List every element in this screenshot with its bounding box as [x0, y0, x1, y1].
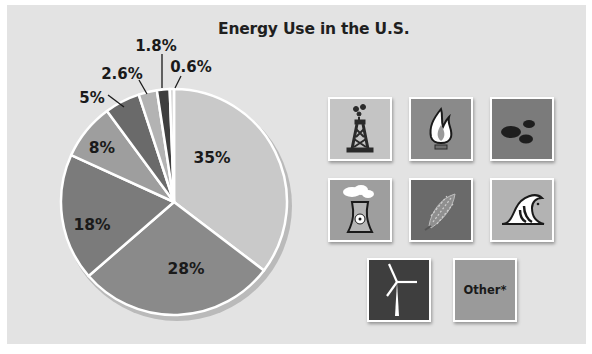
legend-tile-nuclear	[328, 178, 392, 242]
pie-slices	[61, 89, 292, 321]
label-wind: 1.8%	[135, 37, 177, 55]
label-hydro: 2.6%	[101, 65, 143, 83]
corn-icon	[411, 180, 471, 240]
label-biomass: 5%	[79, 89, 104, 107]
label-other: 0.6%	[170, 58, 212, 76]
oil-derrick-icon	[330, 99, 390, 159]
gas-flame-icon	[411, 99, 471, 159]
wave-icon	[492, 180, 552, 240]
legend-tile-biomass	[409, 178, 473, 242]
label-oil: 35%	[193, 149, 231, 167]
legend-tile-coal	[490, 97, 554, 161]
coal-icon	[492, 99, 552, 159]
wind-turbine-icon	[369, 260, 429, 320]
legend-tile-other: Other*	[453, 258, 517, 322]
legend-tile-oil	[328, 97, 392, 161]
legend-tile-wind	[367, 258, 431, 322]
label-coal: 18%	[73, 216, 111, 234]
label-gas: 28%	[167, 260, 205, 278]
nuclear-plant-icon	[330, 180, 390, 240]
other-label: Other*	[455, 260, 515, 320]
label-nuclear: 8%	[89, 139, 116, 157]
legend-tile-hydro	[490, 178, 554, 242]
legend-tile-gas	[409, 97, 473, 161]
